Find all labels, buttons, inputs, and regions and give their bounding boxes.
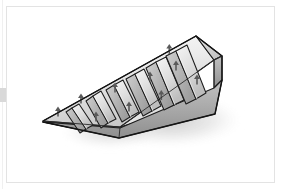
wedge-ramp-illustration[interactable]: Ribbed wedge ramp (0, 0, 281, 189)
model-stage[interactable]: Ribbed wedge ramp (0, 0, 281, 189)
screenshot-viewport: Ribbed wedge ramp wedge-ramp-with-transv… (0, 0, 281, 189)
